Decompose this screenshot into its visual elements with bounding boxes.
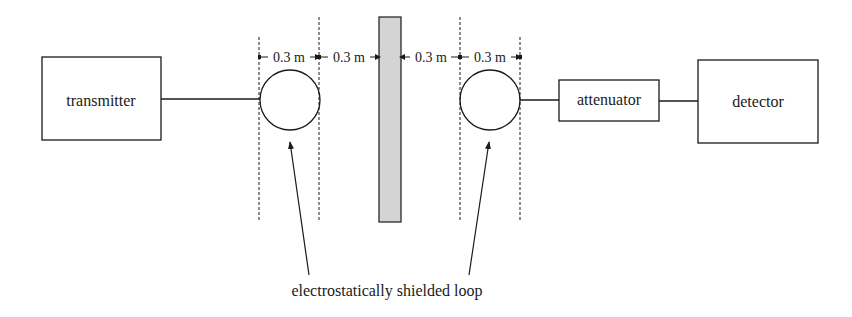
right-pointer-arrow-icon xyxy=(469,142,489,275)
shielding-test-diagram: transmitter attenuator detector 0.3 m 0.… xyxy=(0,0,852,317)
dimension-label-2: 0.3 m xyxy=(333,50,365,65)
transmitter-label: transmitter xyxy=(66,92,136,109)
attenuator-block: attenuator xyxy=(559,80,659,121)
dimension-label-3: 0.3 m xyxy=(415,50,447,65)
left-shielded-loop xyxy=(260,70,320,130)
detector-block: detector xyxy=(698,60,818,143)
left-pointer-arrow-icon xyxy=(290,142,309,275)
right-shielded-loop xyxy=(460,70,520,130)
dimension-label-1: 0.3 m xyxy=(273,50,305,65)
attenuator-label: attenuator xyxy=(577,91,642,108)
caption-label: electrostatically shielded loop xyxy=(291,282,482,300)
shield-wall xyxy=(379,17,401,222)
dimension-label-4: 0.3 m xyxy=(474,50,506,65)
detector-label: detector xyxy=(732,93,784,110)
transmitter-block: transmitter xyxy=(42,57,161,140)
